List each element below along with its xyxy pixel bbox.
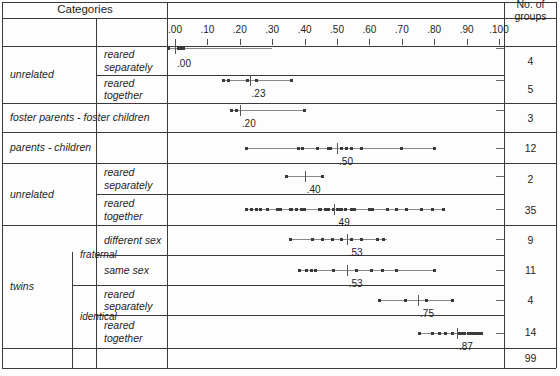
row-connector-tick-1 [496, 80, 504, 81]
data-point [298, 269, 301, 272]
label-same-sex-text: same sex [104, 264, 149, 276]
data-point [289, 238, 292, 241]
data-point [480, 332, 483, 335]
data-point [319, 208, 322, 211]
border-col-a [72, 252, 73, 368]
range-line-row-8 [379, 300, 452, 301]
data-point [444, 332, 447, 335]
data-point [433, 147, 436, 150]
data-point [311, 238, 314, 241]
row-connector-tick-9 [496, 333, 504, 334]
group-count-row-3: 12 [505, 132, 556, 163]
data-point [303, 208, 306, 211]
data-point [332, 269, 335, 272]
data-point [344, 208, 347, 211]
group-count-row-4: 2 [505, 163, 556, 194]
row-connector-tick-7 [496, 270, 504, 271]
data-point [360, 238, 363, 241]
data-point [350, 238, 353, 241]
data-point [350, 147, 353, 150]
data-point [290, 208, 293, 211]
data-point [418, 332, 421, 335]
group-count-row-9: 14 [505, 315, 556, 348]
data-point [345, 147, 348, 150]
data-point [400, 147, 403, 150]
mean-marker-row-3 [337, 143, 338, 154]
data-point [167, 47, 170, 50]
data-point [340, 238, 343, 241]
data-point [222, 79, 225, 82]
label-reared-separately-2: reared separately [98, 163, 167, 194]
data-point [285, 175, 288, 178]
label-reared-separately-1-line1: reared [104, 48, 134, 60]
data-point [395, 269, 398, 272]
data-point [290, 79, 293, 82]
label-reared-separately-2-line2: separately [104, 179, 152, 191]
mean-marker-row-9 [457, 328, 458, 339]
label-reared-separately-3-line1: reared [104, 288, 134, 300]
data-point [431, 208, 434, 211]
data-point [310, 269, 313, 272]
axis-tick-8 [434, 39, 435, 45]
data-point [331, 238, 334, 241]
mean-label-row-3: .50 [339, 156, 353, 167]
correlation-chart-figure: Categories No. of groups unrelated reare… [0, 0, 560, 376]
label-unrelated-2-text: unrelated [10, 188, 54, 200]
label-reared-separately-3: reared separately [98, 285, 167, 315]
mean-marker-row-8 [418, 295, 419, 306]
axis-tick-label-9: .90 [460, 24, 474, 35]
data-point [371, 208, 374, 211]
axis-tick-1 [207, 39, 208, 45]
mean-marker-row-5 [334, 204, 335, 215]
data-point [404, 299, 407, 302]
label-reared-separately-1: reared separately [98, 46, 167, 75]
axis-tick-label-3: .30 [265, 24, 279, 35]
axis-tick-label-4: .40 [298, 24, 312, 35]
data-point [438, 332, 441, 335]
row-connector-tick-3 [496, 148, 504, 149]
mean-marker-row-4 [305, 171, 306, 182]
data-point [405, 208, 408, 211]
label-reared-together-3-line2: together [104, 332, 143, 344]
mean-label-row-5: .49 [336, 217, 350, 228]
data-point [431, 332, 434, 335]
data-point [321, 175, 324, 178]
data-point [442, 208, 445, 211]
label-identical: identical [74, 285, 96, 348]
row-connector-tick-2 [496, 110, 504, 111]
mean-label-row-9: .87 [459, 341, 473, 352]
group-count-row-8: 4 [505, 285, 556, 315]
axis-tick-label-0: .00 [168, 24, 182, 35]
data-point [316, 147, 319, 150]
axis-tick-6 [369, 39, 370, 45]
mean-label-row-4: .40 [307, 184, 321, 195]
axis-tick-label-7: .70 [395, 24, 409, 35]
data-point [301, 147, 304, 150]
data-point [255, 208, 258, 211]
row-connector-tick-0 [496, 48, 504, 49]
data-point [279, 208, 282, 211]
data-point [227, 79, 230, 82]
data-point [420, 208, 423, 211]
data-point [381, 269, 384, 272]
mean-label-row-0: .00 [177, 58, 191, 69]
data-point [329, 147, 332, 150]
mean-label-row-2: .20 [242, 118, 256, 129]
label-reared-separately-2-line1: reared [104, 166, 134, 178]
data-point [321, 238, 324, 241]
group-count-total: 99 [505, 348, 556, 368]
border-right [556, 2, 557, 368]
group-count-row-2: 3 [505, 103, 556, 132]
label-reared-together-2: reared together [98, 194, 167, 225]
group-count-row-5: 35 [505, 194, 556, 225]
data-point [378, 299, 381, 302]
data-point [245, 208, 248, 211]
data-point [303, 109, 306, 112]
axis-tick-7 [402, 39, 403, 45]
axis-tick-label-5: .50 [330, 24, 344, 35]
range-line-row-1 [224, 80, 292, 81]
label-reared-together-3: reared together [98, 315, 167, 348]
categories-header-label: Categories [57, 3, 113, 16]
axis-tick-3 [272, 39, 273, 45]
label-parents-children: parents - children [4, 132, 167, 163]
